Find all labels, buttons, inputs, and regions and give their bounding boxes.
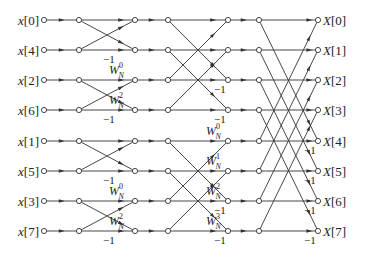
node-circle [132, 138, 137, 143]
twiddle-factor-label: W1N [206, 152, 222, 171]
node-circle [41, 198, 46, 203]
minus-one-label: −1 [103, 234, 115, 246]
arrowhead-icon [118, 48, 124, 51]
node-circle [256, 17, 261, 22]
arrowhead-icon [241, 229, 247, 232]
arrowhead-icon [241, 48, 247, 51]
arrowhead-icon [306, 139, 312, 142]
arrowhead-icon [118, 26, 124, 30]
node-circle [132, 168, 137, 173]
node-circle [76, 47, 81, 52]
arrowhead-icon [118, 169, 124, 172]
arrowhead-icon [59, 139, 65, 142]
arrowhead-icon [241, 108, 247, 111]
minus-one-label: −1 [304, 144, 316, 156]
input-label: x[5] [17, 164, 39, 179]
node-circle [225, 107, 230, 112]
arrowhead-icon [306, 169, 312, 172]
output-label: X[1] [322, 43, 346, 58]
arrowhead-icon [149, 18, 155, 21]
arrowhead-icon [118, 161, 124, 165]
arrowhead-icon [306, 125, 310, 131]
arrowhead-icon [118, 86, 124, 90]
node-circle [165, 228, 170, 233]
twiddle-factor-label: W2N [109, 212, 125, 231]
node-circle [256, 168, 261, 173]
arrowhead-icon [306, 120, 310, 126]
input-label: x[1] [17, 134, 39, 149]
arrowhead-icon [59, 199, 65, 202]
arrowhead-icon [59, 229, 65, 232]
node-circle [165, 107, 170, 112]
node-circle [132, 107, 137, 112]
node-circle [132, 77, 137, 82]
arrowhead-icon [149, 169, 155, 172]
minus-one-label: −1 [304, 204, 316, 216]
node-circle [256, 107, 261, 112]
output-label: X[5] [322, 164, 346, 179]
arrowhead-icon [241, 18, 247, 21]
arrowhead-icon [241, 78, 247, 81]
node-circle [315, 228, 320, 233]
input-label: x[0] [17, 13, 39, 28]
node-circle [76, 198, 81, 203]
node-circle [132, 228, 137, 233]
arrowhead-icon [241, 139, 247, 142]
arrowhead-icon [306, 78, 312, 81]
node-circle [41, 228, 46, 233]
node-circle [41, 168, 46, 173]
arrowhead-icon [149, 139, 155, 142]
arrowhead-icon [59, 169, 65, 172]
fft-diagram-canvas: x[0]x[4]x[2]x[6]x[1]x[5]x[3]x[7]X[0]X[1]… [0, 0, 365, 253]
arrowhead-icon [306, 18, 312, 21]
node-circle [76, 77, 81, 82]
node-circle [315, 77, 320, 82]
node-circle [132, 17, 137, 22]
input-label: x[4] [17, 43, 39, 58]
node-circle [132, 47, 137, 52]
node-circle [165, 47, 170, 52]
node-circle [256, 138, 261, 143]
input-label: x[7] [17, 224, 39, 239]
twiddle-factor-label: W0N [109, 61, 125, 80]
arrowhead-icon [118, 40, 124, 44]
arrowhead-icon [149, 108, 155, 111]
arrowhead-icon [149, 229, 155, 232]
output-label: X[0] [322, 13, 346, 28]
node-circle [41, 77, 46, 82]
output-label: X[7] [322, 224, 346, 239]
twiddle-factor-label: W0N [109, 182, 125, 201]
arrowhead-icon [59, 78, 65, 81]
arrowhead-icon [59, 48, 65, 51]
output-label: X[2] [322, 73, 346, 88]
node-circle [256, 228, 261, 233]
output-label: X[6] [322, 194, 346, 209]
arrowhead-icon [149, 48, 155, 51]
arrowhead-icon [306, 199, 312, 202]
twiddle-factor-label: W2N [206, 182, 222, 201]
input-label: x[6] [17, 103, 39, 118]
node-circle [225, 168, 230, 173]
node-circle [76, 168, 81, 173]
node-circle [315, 168, 320, 173]
node-circle [315, 107, 320, 112]
arrowhead-icon [59, 108, 65, 111]
node-circle [315, 17, 320, 22]
minus-one-label: −1 [214, 234, 226, 246]
node-circle [132, 198, 137, 203]
node-circle [165, 17, 170, 22]
node-circle [225, 228, 230, 233]
twiddle-factor-label: W3N [206, 212, 222, 231]
node-circle [41, 107, 46, 112]
node-circle [76, 107, 81, 112]
output-label: X[4] [322, 134, 346, 149]
node-circle [165, 168, 170, 173]
node-circle [225, 17, 230, 22]
arrowhead-icon [306, 229, 312, 232]
input-label: x[2] [17, 73, 39, 88]
node-circle [256, 77, 261, 82]
node-circle [315, 47, 320, 52]
node-circle [256, 47, 261, 52]
node-circle [225, 47, 230, 52]
node-circle [225, 77, 230, 82]
